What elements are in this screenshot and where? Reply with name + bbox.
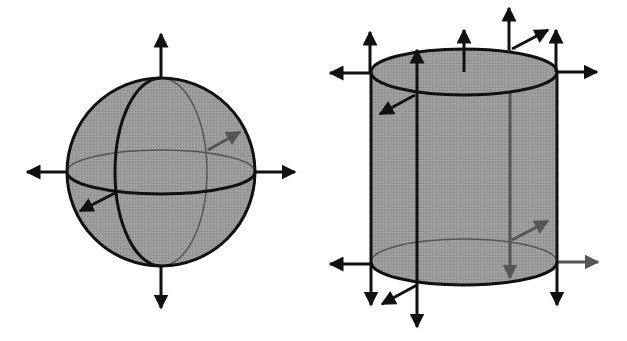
cylinder (330, 8, 598, 327)
sphere (27, 34, 295, 308)
normal-arrow-icon-top-back-diag (512, 30, 548, 49)
figure-canvas (0, 0, 627, 341)
normal-arrow-icon-bottom-front-diag (382, 285, 417, 304)
